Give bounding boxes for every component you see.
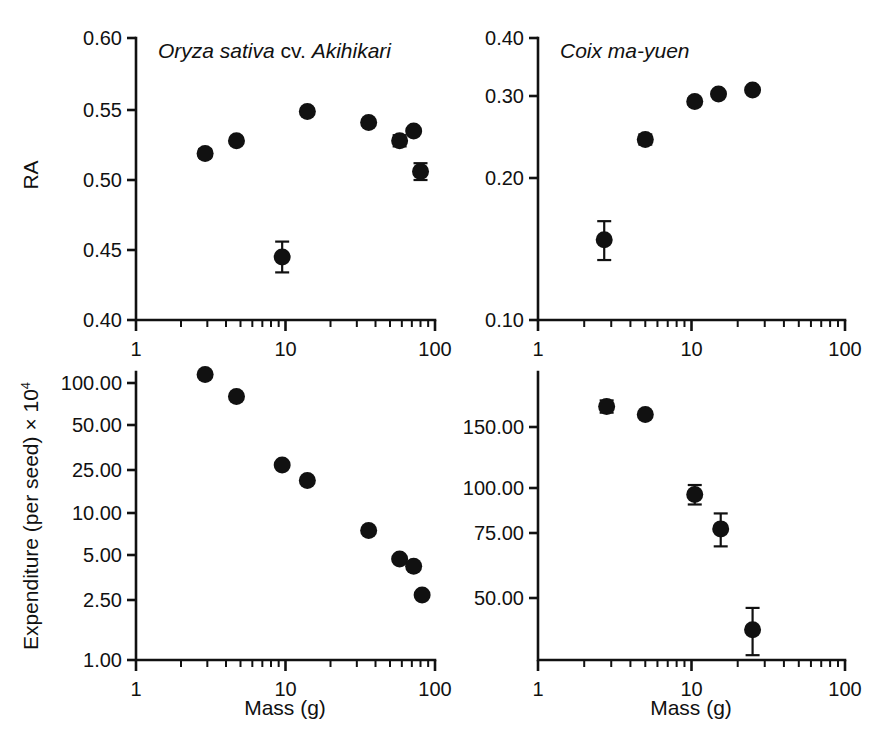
marker-top-left-4: [360, 114, 377, 131]
x-ticklabel-bottom-left-0: 1: [130, 678, 141, 700]
data-point-bottom-left-4: [360, 522, 377, 539]
data-point-top-right-1: [637, 131, 654, 148]
caption-fragment-strip: [0, 737, 888, 747]
y-ticklabel-bottom-left-3: 10.00: [72, 502, 122, 524]
y-axis-title-expenditure: Expenditure (per seed) × 104: [18, 382, 42, 650]
data-point-top-left-4: [360, 114, 377, 131]
data-point-bottom-right-3: [712, 513, 729, 546]
data-point-bottom-left-6: [405, 558, 422, 575]
y-ticklabel-bottom-right-1: 75.00: [474, 522, 524, 544]
data-point-bottom-right-2: [686, 485, 703, 504]
marker-top-right-4: [744, 82, 761, 99]
marker-top-right-0: [596, 231, 613, 248]
x-ticklabel-top-left-0: 1: [130, 338, 141, 360]
marker-bottom-left-4: [360, 522, 377, 539]
data-point-top-left-0: [197, 145, 214, 162]
data-point-top-right-3: [710, 85, 727, 102]
y-ticklabel-bottom-left-4: 25.00: [72, 459, 122, 481]
data-point-top-left-2: [274, 242, 291, 273]
data-point-bottom-left-1: [228, 388, 245, 405]
marker-bottom-left-3: [299, 472, 316, 489]
y-ticklabel-top-left-3: 0.55: [83, 99, 122, 121]
marker-top-right-2: [686, 93, 703, 110]
x-ticklabel-top-right-0: 1: [532, 338, 543, 360]
data-point-bottom-right-0: [598, 398, 615, 415]
y-ticklabel-bottom-left-0: 1.00: [83, 649, 122, 671]
marker-bottom-right-2: [686, 486, 703, 503]
x-ticklabel-top-right-2: 100: [828, 338, 861, 360]
panel-bottom-right: 50.0075.00100.00150.00110100: [463, 372, 862, 700]
panel-bottom-left: 1.002.505.0010.0025.0050.00100.00110100: [61, 366, 452, 700]
marker-top-left-6: [405, 123, 422, 140]
data-point-top-left-1: [228, 132, 245, 149]
data-point-bottom-left-7: [414, 587, 431, 604]
y-axis-title-ra: RA: [19, 160, 42, 189]
data-point-bottom-left-2: [274, 457, 291, 474]
y-ticklabel-bottom-left-5: 50.00: [72, 414, 122, 436]
y-ticklabel-bottom-right-3: 150.00: [463, 416, 524, 438]
marker-top-left-0: [197, 145, 214, 162]
x-ticklabel-top-left-1: 10: [274, 338, 296, 360]
marker-top-right-1: [637, 131, 654, 148]
data-point-top-right-4: [744, 82, 761, 99]
y-ticklabel-top-left-2: 0.50: [83, 169, 122, 191]
y-ticklabel-top-right-2: 0.30: [485, 85, 524, 107]
panel-title-top-left: Oryza sativa cv. Akihikari: [158, 39, 392, 62]
panel-top-left: 0.400.450.500.550.60110100Oryza sativa c…: [83, 27, 452, 360]
y-ticklabel-top-right-0: 0.10: [485, 309, 524, 331]
marker-top-left-7: [412, 163, 429, 180]
x-ticklabel-bottom-right-0: 1: [532, 678, 543, 700]
data-point-bottom-left-0: [197, 366, 214, 383]
data-point-top-left-6: [405, 123, 422, 140]
x-ticklabel-bottom-left-2: 100: [418, 678, 451, 700]
marker-bottom-left-7: [414, 587, 431, 604]
panel-top-right: 0.100.200.300.40110100Coix ma-yuen: [485, 27, 862, 360]
marker-top-left-5: [391, 132, 408, 149]
axis-lines-bottom-right: [538, 372, 845, 660]
marker-bottom-right-3: [712, 520, 729, 537]
data-point-bottom-right-4: [744, 608, 761, 655]
marker-top-left-1: [228, 132, 245, 149]
marker-bottom-left-2: [274, 457, 291, 474]
y-ticklabel-top-left-1: 0.45: [83, 239, 122, 261]
data-point-top-right-2: [686, 93, 703, 110]
panel-title-top-right: Coix ma-yuen: [560, 39, 690, 62]
four-panel-scatter-figure: 0.400.450.500.550.60110100Oryza sativa c…: [0, 0, 888, 747]
marker-top-left-3: [299, 103, 316, 120]
axis-lines-top-right: [538, 38, 845, 320]
x-ticklabel-bottom-right-2: 100: [828, 678, 861, 700]
data-point-bottom-right-1: [637, 406, 654, 423]
y-ticklabel-bottom-right-0: 50.00: [474, 587, 524, 609]
y-ticklabel-bottom-left-2: 5.00: [83, 544, 122, 566]
marker-bottom-left-1: [228, 388, 245, 405]
data-point-top-left-3: [299, 103, 316, 120]
axis-lines-bottom-left: [136, 372, 435, 660]
x-axis-title-mass-left: Mass (g): [244, 696, 326, 719]
x-axis-title-mass-right: Mass (g): [650, 696, 732, 719]
y-ticklabel-top-left-0: 0.40: [83, 309, 122, 331]
marker-bottom-left-6: [405, 558, 422, 575]
marker-bottom-right-0: [598, 398, 615, 415]
marker-bottom-right-4: [744, 621, 761, 638]
marker-top-right-3: [710, 85, 727, 102]
marker-top-left-2: [274, 249, 291, 266]
y-ticklabel-bottom-left-6: 100.00: [61, 372, 122, 394]
data-point-bottom-left-3: [299, 472, 316, 489]
y-ticklabel-bottom-right-2: 100.00: [463, 477, 524, 499]
y-ticklabel-bottom-left-1: 2.50: [83, 589, 122, 611]
y-ticklabel-top-left-4: 0.60: [83, 27, 122, 49]
figure-root: 0.400.450.500.550.60110100Oryza sativa c…: [0, 0, 888, 747]
data-point-top-left-5: [391, 132, 408, 149]
y-ticklabel-top-right-1: 0.20: [485, 167, 524, 189]
data-point-top-right-0: [596, 221, 613, 260]
data-point-top-left-7: [412, 163, 429, 180]
y-ticklabel-top-right-3: 0.40: [485, 27, 524, 49]
x-ticklabel-top-left-2: 100: [418, 338, 451, 360]
x-ticklabel-top-right-1: 10: [680, 338, 702, 360]
marker-bottom-right-1: [637, 406, 654, 423]
axis-lines-top-left: [136, 38, 435, 320]
marker-bottom-left-0: [197, 366, 214, 383]
